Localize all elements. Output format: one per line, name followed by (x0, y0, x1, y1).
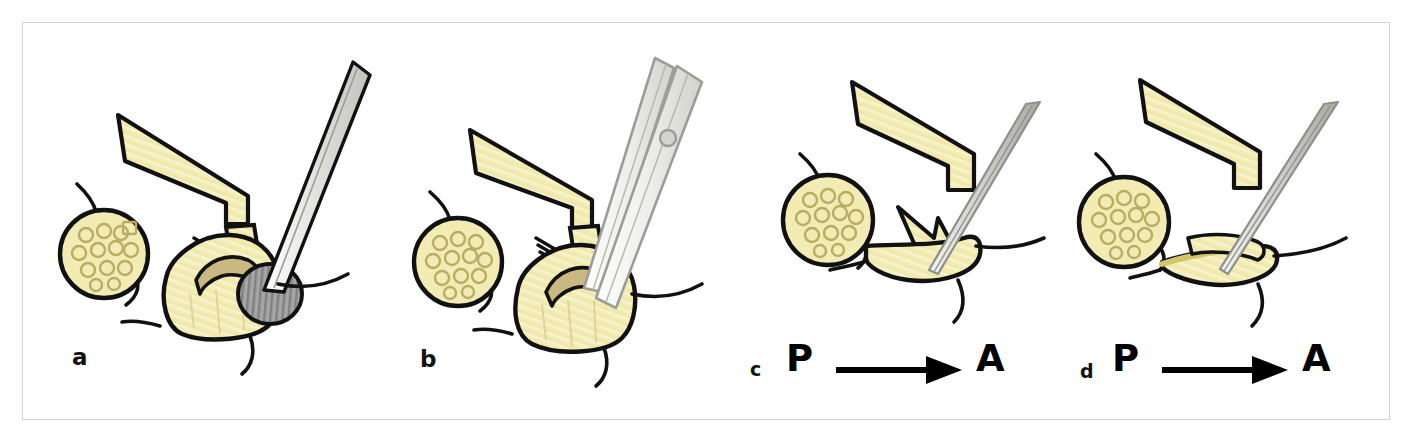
panel-c: c P A (726, 22, 1074, 420)
probe-instrument (264, 62, 370, 292)
nerve-root-cross-section (783, 175, 873, 265)
lamina-retractor (1140, 80, 1260, 188)
direction-arrow-d (1160, 352, 1292, 388)
panel-b: b (378, 22, 726, 420)
direction-arrow-c (834, 352, 966, 388)
panel-letter-c: c (750, 358, 761, 380)
nerve-root-cross-section (60, 210, 148, 298)
panel-letter-d: d (1080, 360, 1094, 382)
forceps-instrument (584, 58, 702, 308)
figure-root: a (0, 0, 1417, 434)
panel-a: a (30, 22, 378, 420)
nerve-root-cross-section (1079, 177, 1169, 267)
lamina-retractor (852, 82, 974, 190)
direction-label-anterior-c: A (976, 340, 1005, 377)
lamina-retractor (470, 130, 592, 228)
forceps-rivet (660, 130, 676, 146)
direction-label-posterior-d: P (1112, 340, 1139, 377)
lamina-retractor (118, 115, 248, 224)
nerve-root-cross-section (414, 218, 502, 306)
panel-letter-b: b (420, 346, 436, 372)
direction-label-posterior-c: P (786, 340, 813, 377)
panel-letter-a: a (72, 344, 88, 370)
direction-label-anterior-d: A (1302, 340, 1331, 377)
collapsed-disc-space (866, 237, 980, 281)
panel-d: d P A (1062, 22, 1410, 420)
